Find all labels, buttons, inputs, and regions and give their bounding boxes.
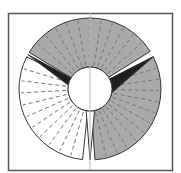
ring-diagram xyxy=(0,0,181,173)
ring-diagram-canvas xyxy=(0,0,181,173)
